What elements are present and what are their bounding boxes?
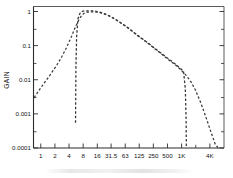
plot-canvas: 10.10.010.0010.0001 12481631.56312525050… [0, 0, 233, 178]
x-tick-label: 1 [39, 152, 43, 159]
x-axis-tick-labels: 12481631.5631252505001K4K [39, 152, 214, 159]
x-tick-label: 31.5 [105, 152, 118, 159]
response-curve [34, 12, 218, 148]
x-tick-label: 125 [134, 152, 145, 159]
x-tick-label: 2 [53, 152, 57, 159]
x-tick-label: 500 [162, 152, 173, 159]
axis-ticks [34, 11, 225, 148]
y-tick-label: 0.001 [16, 110, 32, 117]
y-axis-title: GAIN [3, 71, 10, 89]
x-tick-label: 8 [81, 152, 85, 159]
response-curves [34, 11, 218, 148]
x-tick-label: 4K [206, 152, 214, 159]
y-tick-label: 0.0001 [12, 144, 31, 151]
gain-frequency-chart: 10.10.010.0010.0001 12481631.56312525050… [0, 0, 233, 178]
y-axis-tick-labels: 10.10.010.0010.0001 [12, 8, 31, 152]
x-tick-label: 1K [178, 152, 186, 159]
x-tick-label: 250 [148, 152, 159, 159]
x-tick-label: 16 [94, 152, 101, 159]
y-tick-label: 0.1 [22, 42, 31, 49]
y-tick-label: 0.01 [19, 76, 32, 83]
response-curve [76, 11, 187, 148]
x-tick-label: 4 [67, 152, 71, 159]
y-tick-label: 1 [28, 8, 32, 15]
x-tick-label: 63 [122, 152, 129, 159]
